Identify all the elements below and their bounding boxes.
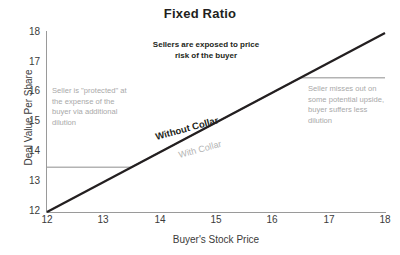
annotation-center: Sellers are exposed to price risk of the…	[148, 40, 264, 61]
annotation-left: Seller is "protected" at the expense of …	[52, 86, 128, 128]
annotation-right: Seller misses out on some potential upsi…	[308, 84, 390, 126]
chart-canvas: Fixed Ratio Deal Value Per Share Buyer's…	[0, 0, 400, 255]
